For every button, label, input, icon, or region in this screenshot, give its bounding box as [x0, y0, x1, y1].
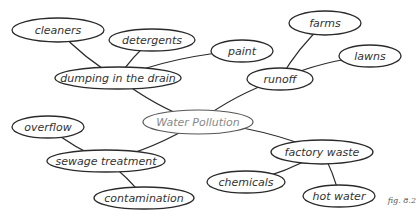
node-label: lawns [354, 50, 386, 63]
node-label: contamination [104, 192, 183, 205]
node-contamination: contamination [94, 187, 194, 209]
node-detergents: detergents [109, 29, 195, 51]
node-label: runoff [263, 73, 297, 86]
node-label: factory waste [285, 146, 360, 159]
node-label: dumping in the drain [60, 72, 176, 85]
node-paint: paint [211, 40, 273, 62]
node-label: sewage treatment [56, 155, 158, 168]
node-label: farms [309, 17, 341, 30]
node-cleaners: cleaners [12, 18, 104, 42]
mind-map-nodes: dumping in the draincleanersdetergentspa… [12, 11, 401, 209]
center-node: Water Pollution [143, 110, 253, 134]
node-runoff: runoff [247, 68, 313, 90]
figure-caption: fig. 8.2 [388, 196, 416, 205]
node-hotwater: hot water [303, 185, 375, 207]
node-lawns: lawns [339, 45, 401, 67]
node-sewage: sewage treatment [47, 150, 165, 172]
node-chemicals: chemicals [207, 171, 285, 193]
node-label: chemicals [218, 176, 273, 189]
node-label: detergents [122, 34, 182, 47]
node-factory: factory waste [271, 140, 373, 164]
node-farms: farms [289, 11, 361, 35]
node-label: cleaners [35, 24, 82, 37]
node-overflow: overflow [12, 116, 84, 138]
node-label: overflow [24, 121, 71, 134]
mind-map: dumping in the draincleanersdetergentspa… [0, 0, 420, 224]
node-label: Water Pollution [156, 116, 240, 129]
node-label: hot water [313, 190, 367, 203]
node-label: paint [227, 45, 257, 58]
node-dumping: dumping in the drain [55, 67, 181, 89]
